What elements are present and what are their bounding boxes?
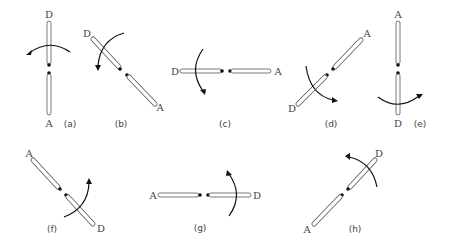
- end-label-a: A: [393, 9, 402, 20]
- end-label-d: D: [97, 223, 105, 234]
- panel-g: A D (g): [148, 170, 261, 233]
- upper-rod: [47, 21, 51, 64]
- end-label-a: A: [302, 224, 311, 235]
- panel-caption: (c): [219, 119, 231, 129]
- panel-e: A D (e): [378, 9, 426, 129]
- upper-rod: [396, 21, 400, 64]
- end-label-d: D: [171, 66, 179, 77]
- lower-rod: [396, 74, 400, 115]
- end-label-a: A: [273, 66, 282, 77]
- end-label-d: D: [83, 28, 91, 39]
- panel-h: D A (h): [302, 148, 383, 235]
- arrowhead-icon: [332, 97, 338, 103]
- panel-caption: (f): [47, 224, 57, 234]
- joint-dot: [58, 187, 62, 191]
- end-label-d: D: [394, 118, 402, 129]
- joint-dot: [47, 63, 51, 67]
- arrowhead-icon: [416, 94, 423, 99]
- left-rod: [180, 69, 222, 73]
- arrowhead-icon: [86, 178, 92, 184]
- panel-caption: (b): [115, 119, 128, 129]
- joint-dot: [198, 193, 202, 197]
- end-label-a: A: [362, 28, 371, 39]
- left-rod: [158, 193, 199, 197]
- end-label-d: D: [253, 190, 261, 201]
- panel-caption: (g): [194, 223, 207, 233]
- end-label-d: D: [375, 148, 383, 159]
- end-label-a: A: [155, 102, 164, 113]
- end-label-a: A: [24, 148, 33, 159]
- lower-rod: [47, 74, 51, 115]
- arrowhead-icon: [26, 50, 32, 55]
- right-rod: [231, 69, 271, 73]
- arrowhead-icon: [345, 153, 350, 160]
- end-label-d: D: [45, 9, 53, 20]
- panel-d: A D (d): [288, 28, 371, 129]
- joint-dot: [346, 187, 350, 191]
- joint-dot: [396, 63, 400, 67]
- joint-dot: [220, 69, 224, 73]
- end-label-a: A: [44, 118, 53, 129]
- panel-c: D A (c): [171, 49, 282, 129]
- arrowhead-icon: [200, 89, 206, 95]
- panel-caption: (e): [414, 119, 427, 129]
- panel-b: D A (b): [83, 28, 164, 129]
- joint-dot: [331, 67, 335, 71]
- panel-caption: (h): [349, 224, 362, 234]
- panel-a: D A (a): [26, 9, 76, 129]
- end-label-a: A: [148, 190, 157, 201]
- rotation-diagram-figure: D A (a) D A (b) D A (c) A: [0, 0, 450, 241]
- end-label-d: D: [288, 103, 296, 114]
- joint-dot: [118, 67, 122, 71]
- arrowhead-icon: [95, 65, 101, 71]
- panel-caption: (d): [325, 119, 338, 129]
- panel-caption: (a): [64, 119, 77, 129]
- panel-f: A D (f): [24, 148, 105, 234]
- arrowhead-icon: [226, 170, 232, 176]
- right-rod: [209, 193, 251, 197]
